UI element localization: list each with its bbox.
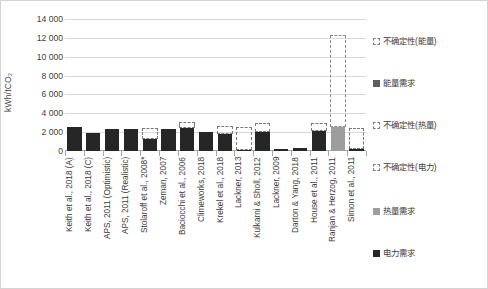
legend-swatch-icon — [373, 38, 380, 45]
bar-segment-electricity[interactable] — [161, 129, 175, 151]
y-axis-tick-label: 6 000 — [17, 89, 63, 99]
legend-item-label: 不确定性(电力) — [383, 163, 437, 171]
chart-container: kWh/tCO₂ 02 0004 0006 0008 00010 00012 0… — [0, 0, 488, 289]
x-axis-category-label: Ranjan & Herzog, 2011 — [328, 157, 347, 281]
x-axis-tick — [140, 151, 141, 156]
legend-swatch-icon — [373, 164, 380, 171]
x-axis-tick — [197, 151, 198, 156]
x-axis-ticks — [65, 151, 366, 156]
x-axis-category-label: Lackner, 2013 — [234, 157, 253, 281]
y-axis-tick-label: 4 000 — [17, 108, 63, 118]
legend-swatch-icon — [373, 122, 380, 129]
x-axis-tick — [291, 151, 292, 156]
x-axis-category-label: Climeworks, 2018 — [197, 157, 216, 281]
bar-group[interactable] — [84, 19, 103, 151]
x-axis-tick — [65, 151, 66, 156]
bar-group[interactable] — [197, 19, 216, 151]
uncertainty-range-box — [142, 128, 158, 139]
y-axis-tick-labels: 02 0004 0006 0008 00010 00012 00014 000 — [17, 13, 63, 151]
x-axis-tick — [347, 151, 348, 156]
chart-legend: 不确定性(能量)能量需求不确定性(热量)不确定性(电力)热量需求电力需求 — [373, 17, 485, 267]
y-axis-tick-label: 0 — [17, 146, 63, 156]
x-axis-category-label: Simon et al., 2011 — [347, 157, 366, 281]
bar-group[interactable] — [159, 19, 178, 151]
legend-swatch-icon — [373, 250, 380, 257]
legend-item[interactable]: 不确定性(电力) — [373, 163, 437, 171]
uncertainty-range-box — [236, 127, 252, 149]
legend-item-label: 不确定性(热量) — [383, 121, 437, 129]
bar-segment-electricity[interactable] — [105, 129, 119, 151]
legend-item-label: 不确定性(能量) — [383, 37, 437, 45]
y-axis-tick-label: 14 000 — [17, 14, 63, 24]
x-axis-tick — [103, 151, 104, 156]
x-axis-tick — [366, 151, 367, 156]
uncertainty-range-box — [179, 122, 195, 128]
bar-group[interactable] — [121, 19, 140, 151]
x-axis-category-label: Krekel et al., 2018 — [216, 157, 235, 281]
x-axis-tick — [328, 151, 329, 156]
x-axis-category-label: Darton & Yang, 2018 — [291, 157, 310, 281]
x-axis-tick — [234, 151, 235, 156]
legend-item[interactable]: 不确定性(热量) — [373, 121, 437, 129]
x-axis-tick — [253, 151, 254, 156]
uncertainty-range-box — [349, 128, 365, 149]
x-axis-category-label: Zeman, 2007 — [159, 157, 178, 281]
legend-swatch-icon — [373, 80, 380, 87]
x-axis-category-label: APS, 2011 (Realistic) — [121, 157, 140, 281]
bar-group[interactable] — [103, 19, 122, 151]
legend-item-label: 电力需求 — [383, 249, 415, 257]
x-axis-tick — [272, 151, 273, 156]
x-axis-tick — [216, 151, 217, 156]
uncertainty-range-box — [255, 123, 271, 132]
x-axis-tick — [84, 151, 85, 156]
bar-segment-electricity[interactable] — [180, 128, 194, 151]
plot-area — [65, 19, 366, 151]
x-axis-tick-labels: Keith et al., 2018 (A)Keith et al., 2018… — [65, 157, 366, 283]
y-axis-tick-label: 2 000 — [17, 127, 63, 137]
bar-segment-electricity[interactable] — [143, 139, 157, 151]
x-axis-tick — [121, 151, 122, 156]
x-axis-tick — [178, 151, 179, 156]
legend-swatch-icon — [373, 208, 380, 215]
y-axis-tick-label: 8 000 — [17, 71, 63, 81]
bar-segment-electricity[interactable] — [255, 132, 269, 151]
x-axis-category-label: Lackner, 2009 — [272, 157, 291, 281]
bar-segment-electricity[interactable] — [67, 127, 81, 151]
x-axis-category-label: APS, 2011 (Optimistic) — [103, 157, 122, 281]
bar-segment-electricity[interactable] — [312, 131, 326, 151]
y-axis-title: kWh/tCO₂ — [3, 47, 17, 137]
bar-group[interactable] — [178, 19, 197, 151]
bar-group[interactable] — [291, 19, 310, 151]
uncertainty-range-box — [311, 123, 327, 131]
x-axis-category-label: Keith et al., 2018 (A) — [65, 157, 84, 281]
bar-segment-electricity[interactable] — [218, 134, 232, 151]
x-axis-tick — [310, 151, 311, 156]
legend-item[interactable]: 电力需求 — [373, 249, 415, 257]
y-axis-tick-label: 12 000 — [17, 33, 63, 43]
bar-segment-heat[interactable] — [331, 127, 345, 151]
bar-segment-electricity[interactable] — [86, 133, 100, 151]
x-axis-tick — [159, 151, 160, 156]
legend-item[interactable]: 热量需求 — [373, 207, 415, 215]
x-axis-category-label: Stolaroff et al., 2008* — [140, 157, 159, 281]
x-axis-category-label: Baciocchi et al., 2006 — [178, 157, 197, 281]
y-axis-tick-label: 10 000 — [17, 52, 63, 62]
legend-item-label: 能量需求 — [383, 79, 415, 87]
bar-group[interactable] — [65, 19, 84, 151]
legend-item-label: 热量需求 — [383, 207, 415, 215]
bar-segment-electricity[interactable] — [199, 132, 213, 151]
legend-item[interactable]: 能量需求 — [373, 79, 415, 87]
uncertainty-range-box — [217, 126, 233, 134]
x-axis-category-label: House et al., 2011 — [310, 157, 329, 281]
x-axis-category-label: Kulkarni & Sholl, 2012 — [253, 157, 272, 281]
bar-group[interactable] — [272, 19, 291, 151]
legend-item[interactable]: 不确定性(能量) — [373, 37, 437, 45]
bar-segment-electricity[interactable] — [124, 129, 138, 151]
bar-group[interactable] — [310, 19, 329, 151]
uncertainty-range-box — [330, 35, 346, 127]
x-axis-category-label: Keith et al., 2018 (C) — [84, 157, 103, 281]
